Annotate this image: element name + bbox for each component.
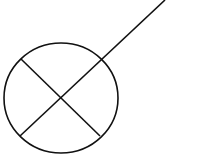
diagram-canvas: [0, 0, 199, 160]
cross-line-up-extended: [20, 0, 165, 136]
